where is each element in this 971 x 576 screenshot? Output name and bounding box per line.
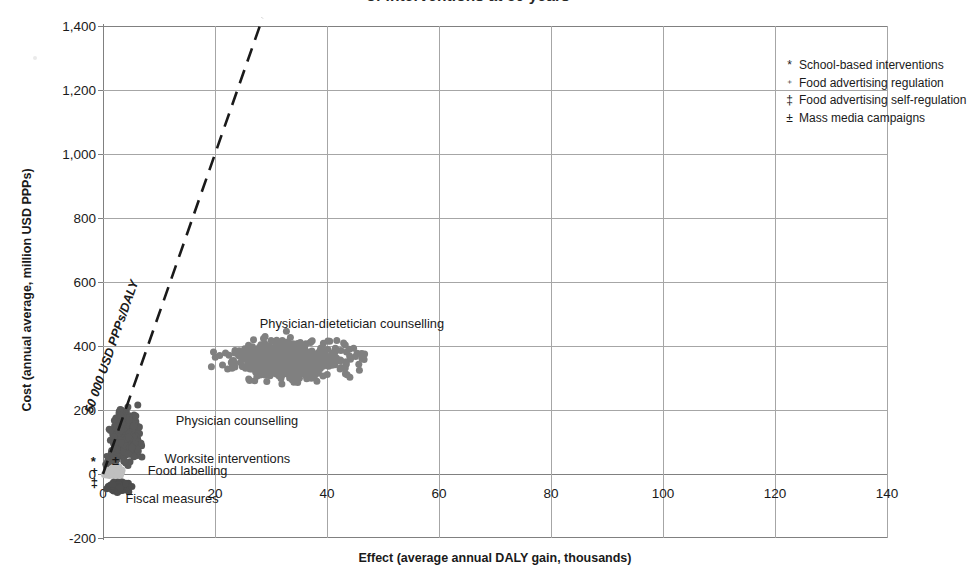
legend-item[interactable]: *School-based interventions: [784, 57, 971, 75]
legend-item-label: Mass media campaigns: [799, 110, 925, 128]
origin-symbol-marker: ‡: [91, 476, 98, 489]
legend-symbol-icon: ±: [784, 110, 795, 128]
series-label: Food labelling: [148, 463, 228, 478]
legend-item[interactable]: ‡Food advertising self-regulation: [784, 92, 971, 110]
origin-symbol-marker: ±: [112, 454, 119, 467]
plot-area: 1,4001,2001,0008006004002000-200 0204060…: [103, 26, 887, 538]
legend-symbol-icon: *: [784, 57, 795, 75]
series-label: Physician-dietetician counselling: [260, 316, 444, 331]
y-tick-label: 1,200: [62, 83, 96, 98]
y-tick-label: 1,400: [62, 19, 96, 34]
y-tick-label: 1,000: [62, 147, 96, 162]
legend-item-label: Food advertising self-regulation: [799, 92, 966, 110]
legend-item[interactable]: ⁺Food advertising regulation: [784, 75, 971, 93]
legend-item-label: School-based interventions: [799, 57, 944, 75]
series-label: Fiscal measures: [125, 491, 218, 506]
scan-speck: [22, 346, 27, 350]
y-tick-label: 800: [73, 211, 96, 226]
x-axis-title: Effect (average annual DALY gain, thousa…: [103, 551, 887, 565]
legend-item-label: Food advertising regulation: [799, 75, 944, 93]
y-tick-mark: [98, 538, 103, 539]
y-tick-label: 400: [73, 339, 96, 354]
chart-title: of interventions at 50 years: [0, 0, 936, 5]
series-label: Physician counselling: [176, 413, 298, 428]
chart-legend: *School-based interventions⁺Food adverti…: [784, 57, 971, 127]
y-axis-title: Cost (annual average, million USD PPPs): [20, 95, 34, 485]
y-tick-label: -200: [69, 531, 96, 546]
scan-speck: [33, 56, 37, 60]
series-cloud: [208, 328, 368, 388]
legend-item[interactable]: ±Mass media campaigns: [784, 110, 971, 128]
legend-symbol-icon: ⁺: [784, 75, 795, 93]
y-tick-label: 600: [73, 275, 96, 290]
legend-symbol-icon: ‡: [784, 92, 795, 110]
